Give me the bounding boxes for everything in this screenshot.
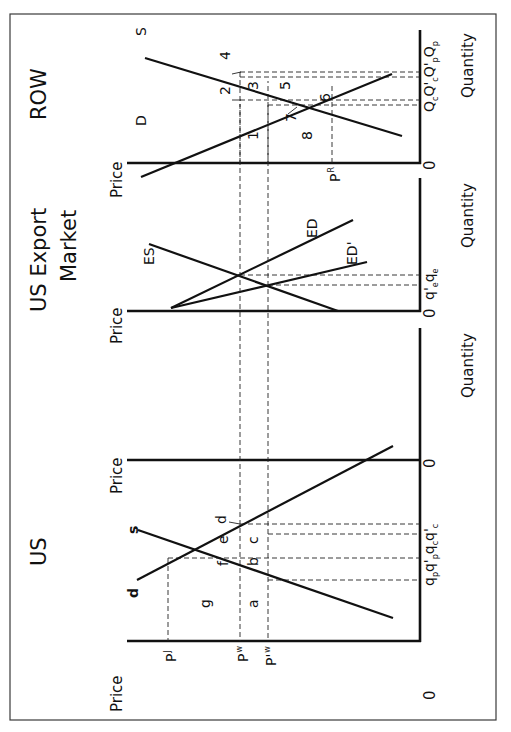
us-supply-label: s xyxy=(125,526,141,534)
export-quantity-labels: q'eqe xyxy=(421,268,440,300)
row-area-4: 4 xyxy=(217,51,233,60)
row-quantity-axis-label: Quantity xyxy=(459,33,477,98)
row-quantity-labels: QcQ'cQ'pQp xyxy=(421,41,440,112)
row-area-7: 7 xyxy=(283,113,299,122)
row-origin-label: 0 xyxy=(421,160,439,170)
us-price-pw: Pw xyxy=(235,646,251,662)
us-area-a: a xyxy=(245,599,261,608)
es-label: ES xyxy=(141,247,157,265)
row-area-2: 2 xyxy=(217,86,233,95)
us-area-e: e xyxy=(215,535,231,544)
us-panel: US Price Price Quantity 0 0 d s d e f c … xyxy=(27,72,477,712)
us-quantity-axis-label: Quantity xyxy=(459,333,477,398)
us-demand-label: d xyxy=(125,588,141,598)
export-price-axis-label: Price xyxy=(108,307,126,344)
us-area-g: g xyxy=(197,599,213,608)
ed-label: ED xyxy=(304,218,320,238)
export-quantity-axis-label: Quantity xyxy=(459,183,477,248)
us-quantity-labels: qpq'pqcq'c xyxy=(421,524,440,586)
us-area-d-leader xyxy=(229,522,240,524)
us-area-c: c xyxy=(245,536,261,544)
us-supply-curve xyxy=(137,446,393,580)
row-price-axis-label: Price xyxy=(108,161,126,198)
row-supply-label: S xyxy=(133,27,149,36)
figure-frame xyxy=(10,14,496,720)
trade-diagram: ROW Price Quantity 0 S D 2 4 3 5 6 7 1 8… xyxy=(0,0,511,732)
us-area-b: b xyxy=(245,557,261,566)
row-area-5: 5 xyxy=(277,81,293,90)
row-area-6: 6 xyxy=(317,93,333,102)
export-market-panel: US Export Market Price Quantity 0 ES ED … xyxy=(27,178,477,344)
us-area-d: d xyxy=(213,515,229,524)
row-panel: ROW Price Quantity 0 S D 2 4 3 5 6 7 1 8… xyxy=(27,27,477,198)
us-title: US xyxy=(27,537,51,566)
us-origin-label: 0 xyxy=(421,458,439,468)
excess-demand-curve xyxy=(171,220,353,308)
row-area-8: 8 xyxy=(299,131,315,140)
row-demand-label: D xyxy=(133,115,149,126)
us-origin-label-bottom: 0 xyxy=(421,690,439,700)
us-price-pw-prime: P'w xyxy=(263,646,279,666)
us-price-axis-label: Price xyxy=(108,457,126,494)
us-demand-curve xyxy=(138,530,393,618)
export-title-line2: Market xyxy=(57,210,81,282)
export-origin-label: 0 xyxy=(421,308,439,318)
row-area-3: 3 xyxy=(245,81,261,90)
row-area-1: 1 xyxy=(245,131,261,140)
row-title: ROW xyxy=(27,68,51,120)
excess-supply-curve xyxy=(149,244,338,311)
row-price-pr: PR xyxy=(327,167,343,182)
row-demand-curve xyxy=(141,74,392,177)
us-price-pj: PJ xyxy=(163,650,179,662)
row-supply-curve xyxy=(145,58,402,136)
us-price-axis-label-bottom: Price xyxy=(108,675,126,712)
ed-prime-label: ED' xyxy=(344,242,360,265)
export-title-line1: US Export xyxy=(27,208,51,312)
excess-demand-shifted-curve xyxy=(171,262,367,308)
